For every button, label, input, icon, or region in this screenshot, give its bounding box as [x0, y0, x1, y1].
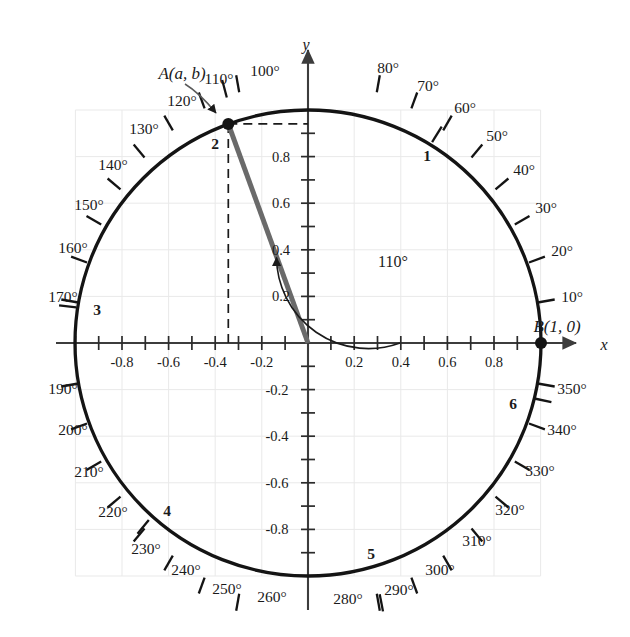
- degree-label-40: 40°: [513, 162, 535, 178]
- degree-label-50: 50°: [486, 128, 508, 144]
- degree-label-120: 120°: [167, 93, 196, 109]
- unit-circle-figure: x y A(a, b) B(1, 0) 110° 10° 20° 30° 40°…: [0, 0, 630, 637]
- degree-label-110: 110°: [205, 71, 234, 87]
- degree-label-10: 10°: [561, 289, 583, 305]
- degree-label-220: 220°: [98, 504, 127, 520]
- x-tick-label-neg02: -0.2: [250, 355, 273, 370]
- y-tick-label-pos04: 0.4: [272, 243, 290, 258]
- degree-label-330: 330°: [525, 463, 554, 479]
- point-a-dot: [222, 118, 234, 130]
- marker-number-1: 1: [423, 148, 431, 164]
- x-tick-label-neg08: -0.8: [111, 355, 134, 370]
- degree-label-210: 210°: [74, 464, 103, 480]
- degree-label-130: 130°: [129, 121, 158, 137]
- y-tick-label-neg02: -0.2: [266, 382, 289, 397]
- degree-label-320: 320°: [495, 502, 524, 518]
- marker-number-3: 3: [93, 302, 101, 318]
- marker-number-2: 2: [211, 136, 219, 152]
- y-tick-label-pos06: 0.6: [272, 196, 290, 211]
- x-tick-label-pos02: 0.2: [345, 355, 363, 370]
- y-tick-label-pos02: 0.2: [272, 289, 290, 304]
- point-b-dot: [535, 337, 547, 349]
- y-tick-label-pos08: 0.8: [272, 149, 290, 164]
- degree-label-140: 140°: [98, 157, 127, 173]
- degree-label-70: 70°: [417, 78, 439, 94]
- x-tick-label-pos06: 0.6: [438, 355, 456, 370]
- degree-label-230: 230°: [131, 541, 160, 557]
- degree-label-340: 340°: [547, 422, 576, 438]
- degree-label-80: 80°: [377, 60, 399, 76]
- arc-angle-label: 110°: [378, 254, 408, 270]
- degree-label-150: 150°: [74, 197, 103, 213]
- degree-label-290: 290°: [384, 582, 413, 598]
- degree-label-300: 300°: [425, 562, 454, 578]
- degree-label-170: 170°: [48, 289, 77, 305]
- degree-label-20: 20°: [551, 243, 573, 259]
- degree-label-100: 100°: [250, 63, 279, 79]
- x-tick-label-pos04: 0.4: [392, 355, 410, 370]
- degree-label-60: 60°: [454, 100, 476, 116]
- degree-label-160: 160°: [58, 240, 87, 256]
- marker-number-5: 5: [367, 546, 375, 562]
- marker-number-4: 4: [163, 503, 171, 519]
- x-tick-label-pos08: 0.8: [485, 355, 503, 370]
- degree-label-310: 310°: [462, 533, 491, 549]
- point-a-label: A(a, b): [158, 65, 205, 82]
- degree-label-240: 240°: [171, 562, 200, 578]
- y-tick-label-neg08: -0.8: [266, 522, 289, 537]
- degree-label-350: 350°: [557, 381, 586, 397]
- degree-label-200: 200°: [58, 422, 87, 438]
- y-tick-label-neg06: -0.6: [266, 476, 289, 491]
- degree-label-250: 250°: [212, 581, 241, 597]
- marker-number-6: 6: [509, 396, 517, 412]
- degree-label-280: 280°: [333, 591, 362, 607]
- degree-label-190: 190°: [48, 381, 77, 397]
- point-b-label: B(1, 0): [533, 318, 580, 335]
- y-axis-label: y: [302, 37, 309, 53]
- degree-label-260: 260°: [257, 589, 286, 605]
- x-tick-label-neg06: -0.6: [157, 355, 180, 370]
- degree-label-30: 30°: [535, 200, 557, 216]
- x-tick-label-neg04: -0.4: [204, 355, 227, 370]
- x-axis-label: x: [600, 337, 607, 353]
- y-tick-label-neg04: -0.4: [266, 429, 289, 444]
